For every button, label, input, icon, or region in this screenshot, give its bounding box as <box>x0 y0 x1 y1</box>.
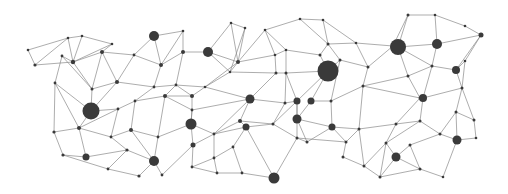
graph-edge <box>205 87 250 99</box>
graph-node <box>71 60 75 64</box>
graph-node-large <box>186 119 197 130</box>
graph-edge <box>435 15 465 26</box>
graph-edge <box>176 52 183 85</box>
graph-edge <box>297 119 332 127</box>
graph-node <box>33 63 36 66</box>
graph-node <box>355 42 358 45</box>
graph-edge <box>465 26 481 35</box>
graph-node <box>419 168 422 171</box>
graph-node <box>358 128 361 131</box>
graph-edge <box>323 20 356 43</box>
graph-edge <box>356 43 393 46</box>
graph-edge <box>108 169 139 176</box>
graph-edge <box>55 56 62 83</box>
graph-edge <box>238 55 275 62</box>
graph-edge <box>118 101 135 109</box>
graph-node-large <box>329 124 336 131</box>
graph-node <box>434 14 437 17</box>
graph-edge <box>265 19 300 30</box>
graph-node-large <box>452 66 460 74</box>
graph-edge <box>214 127 246 134</box>
graph-edge <box>396 98 420 124</box>
graph-node <box>461 87 464 90</box>
graph-edge <box>273 103 285 124</box>
graph-edge <box>474 120 476 138</box>
graph-edge <box>286 73 297 101</box>
graph-node <box>244 27 247 30</box>
graph-node <box>272 123 275 126</box>
graph-node-large <box>390 39 406 55</box>
graph-edge <box>423 88 462 98</box>
graph-node-large <box>318 61 339 82</box>
graph-node <box>153 86 156 89</box>
graph-node <box>204 86 207 89</box>
graph-node-large <box>149 156 159 166</box>
graph-node <box>115 80 119 84</box>
graph-node <box>91 88 94 91</box>
graph-node <box>407 14 410 17</box>
graph-edge <box>233 127 246 147</box>
graph-edge <box>92 52 102 89</box>
graph-node <box>190 94 194 98</box>
graph-edge <box>154 85 176 87</box>
graph-edge <box>193 134 214 145</box>
graph-edge <box>102 52 134 55</box>
graph-edge <box>158 96 165 137</box>
graph-node <box>363 165 366 168</box>
graph-edge <box>462 61 465 88</box>
graph-edge <box>320 44 328 55</box>
graph-node <box>191 166 194 169</box>
graph-edge <box>214 147 233 158</box>
graph-edge <box>205 62 238 87</box>
graph-edge <box>111 130 131 137</box>
graph-node <box>216 172 219 175</box>
graph-edge <box>343 157 364 166</box>
graph-edge <box>332 127 359 129</box>
graph-edge <box>343 142 346 157</box>
graph-edge <box>68 36 82 38</box>
graph-node <box>27 49 30 52</box>
graph-node <box>285 49 288 52</box>
graph-edge <box>192 167 217 173</box>
graph-edge <box>231 23 245 28</box>
graph-edge <box>28 38 68 50</box>
graph-edge <box>214 158 217 173</box>
graph-edge <box>274 138 297 178</box>
graph-edge <box>111 109 118 137</box>
graph-edge <box>408 66 432 76</box>
graph-node-large <box>246 95 255 104</box>
graph-node <box>306 141 309 144</box>
graph-edge <box>102 52 117 82</box>
graph-node <box>213 133 216 136</box>
graph-node <box>379 176 382 179</box>
graph-node <box>125 148 128 151</box>
graph-node-large <box>269 173 280 184</box>
graph-edge <box>73 52 102 62</box>
graph-edge <box>230 72 276 73</box>
graph-edge <box>35 38 68 65</box>
edges-layer <box>28 15 481 178</box>
graph-edge <box>192 87 205 96</box>
graph-node <box>111 43 114 46</box>
graph-edge <box>208 23 231 52</box>
graph-edge <box>386 121 420 143</box>
graph-node-large <box>293 115 302 124</box>
graph-edge <box>238 30 265 62</box>
graph-node <box>327 43 330 46</box>
graph-node <box>238 119 242 123</box>
graph-edge <box>28 50 35 65</box>
graph-edge <box>161 52 183 65</box>
graph-edge <box>192 158 214 167</box>
graph-edge <box>331 101 332 127</box>
graph-node-large <box>149 31 159 41</box>
graph-node <box>275 72 278 75</box>
graph-node-large <box>294 98 301 105</box>
graph-edge <box>410 145 420 169</box>
graph-edge <box>359 129 364 166</box>
graph-edge <box>54 83 55 132</box>
graph-edge <box>346 129 359 142</box>
graph-node <box>475 137 478 140</box>
graph-edge <box>465 35 481 61</box>
graph-node <box>54 82 57 85</box>
graph-edge <box>111 137 127 150</box>
